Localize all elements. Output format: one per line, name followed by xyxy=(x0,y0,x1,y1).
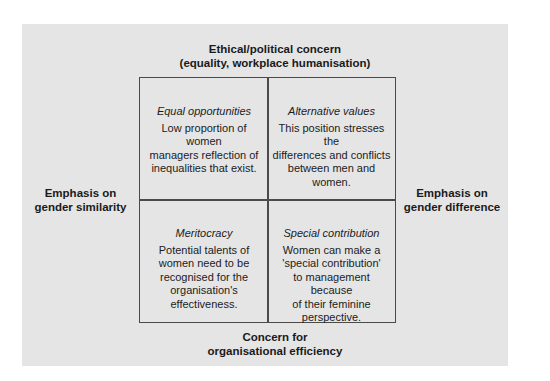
axis-label-bottom: Concern for organisational efficiency xyxy=(0,331,550,358)
quadrant-equal-opportunities: Equal opportunities Low proportion of wo… xyxy=(140,105,268,176)
axis-label-right-line2: gender difference xyxy=(396,201,508,215)
axis-label-right-line1: Emphasis on xyxy=(396,187,508,201)
axis-label-bottom-line1: Concern for xyxy=(0,331,550,345)
horizontal-divider xyxy=(140,199,395,201)
axis-label-left: Emphasis on gender similarity xyxy=(22,187,139,214)
quadrant-title: Equal opportunities xyxy=(144,105,264,119)
axis-label-top: Ethical/political concern (equality, wor… xyxy=(0,43,550,70)
quadrant-title: Meritocracy xyxy=(144,227,264,241)
axis-label-left-line2: gender similarity xyxy=(22,201,139,215)
quadrant-title: Alternative values xyxy=(272,105,391,119)
axis-label-top-line2: (equality, workplace humanisation) xyxy=(0,57,550,71)
quadrant-body: Low proportion of women managers reflect… xyxy=(144,122,264,176)
quadrant-body: This position stresses the differences a… xyxy=(272,122,391,190)
quadrant-body: Potential talents of women need to be re… xyxy=(144,244,264,312)
quadrant-special-contribution: Special contribution Women can make a 's… xyxy=(268,227,395,325)
axis-label-bottom-line2: organisational efficiency xyxy=(0,345,550,359)
axis-label-left-line1: Emphasis on xyxy=(22,187,139,201)
quadrant-grid: Equal opportunities Low proportion of wo… xyxy=(139,77,396,323)
axis-label-top-line1: Ethical/political concern xyxy=(0,43,550,57)
quadrant-body: Women can make a 'special contribution' … xyxy=(272,244,391,325)
quadrant-title: Special contribution xyxy=(272,227,391,241)
quadrant-meritocracy: Meritocracy Potential talents of women n… xyxy=(140,227,268,311)
axis-label-right: Emphasis on gender difference xyxy=(396,187,508,214)
quadrant-alternative-values: Alternative values This position stresse… xyxy=(268,105,395,189)
